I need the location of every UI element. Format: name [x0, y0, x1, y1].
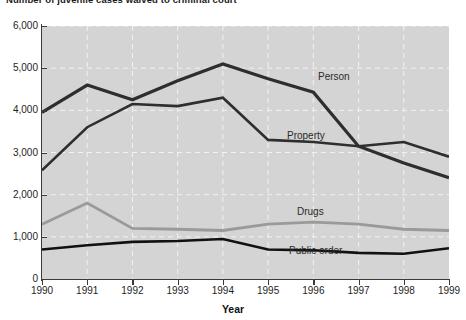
series-line-person — [42, 64, 449, 178]
y-axis-tick-label: 6,000 — [0, 21, 38, 31]
y-axis-tick-mark — [42, 26, 47, 27]
x-axis-tick-mark — [42, 280, 43, 285]
y-axis-tick-mark — [42, 195, 47, 196]
chart-title: Number of juvenile cases waived to crimi… — [6, 0, 237, 5]
x-axis-tick-label: 1991 — [65, 285, 109, 296]
y-axis-tick-label: 0 — [0, 274, 38, 284]
x-axis-tick-mark — [268, 280, 269, 285]
series-line-property — [42, 98, 449, 171]
x-axis-tick-label: 1999 — [427, 285, 466, 296]
series-label-public-order: Public order — [289, 245, 342, 256]
plot-svg — [42, 26, 449, 279]
x-axis-tick-mark — [223, 280, 224, 285]
x-axis-tick-label: 1992 — [110, 285, 154, 296]
x-axis-tick-label: 1990 — [20, 285, 64, 296]
x-axis-tick-mark — [87, 280, 88, 285]
x-axis-tick-label: 1996 — [291, 285, 335, 296]
y-axis-tick-mark — [42, 68, 47, 69]
y-axis-tick-mark — [42, 153, 47, 154]
series-label-property: Property — [287, 130, 325, 141]
x-axis-tick-label: 1998 — [382, 285, 426, 296]
x-axis-line — [41, 279, 450, 280]
plot-area — [42, 26, 449, 279]
x-axis-tick-mark — [449, 280, 450, 285]
y-axis-tick-label: 2,000 — [0, 190, 38, 200]
x-axis-tick-mark — [359, 280, 360, 285]
series-label-person: Person — [318, 71, 350, 82]
y-axis-tick-mark — [42, 237, 47, 238]
x-axis-label: Year — [0, 303, 466, 315]
y-axis-tick-mark — [42, 110, 47, 111]
x-axis-tick-mark — [132, 280, 133, 285]
y-axis-tick-label: 5,000 — [0, 63, 38, 73]
y-axis-tick-label: 1,000 — [0, 232, 38, 242]
series-line-drugs — [42, 203, 449, 230]
x-axis-tick-mark — [313, 280, 314, 285]
x-axis-tick-label: 1997 — [337, 285, 381, 296]
x-axis-tick-mark — [178, 280, 179, 285]
x-axis-tick-mark — [404, 280, 405, 285]
x-axis-tick-label: 1995 — [246, 285, 290, 296]
x-axis-tick-label: 1993 — [156, 285, 200, 296]
series-label-drugs: Drugs — [297, 206, 324, 217]
series-line-public-order — [42, 239, 449, 254]
y-axis-tick-label: 3,000 — [0, 148, 38, 158]
x-axis-tick-label: 1994 — [201, 285, 245, 296]
chart-figure: Number of juvenile cases waived to crimi… — [0, 0, 466, 320]
y-axis-tick-label: 4,000 — [0, 105, 38, 115]
